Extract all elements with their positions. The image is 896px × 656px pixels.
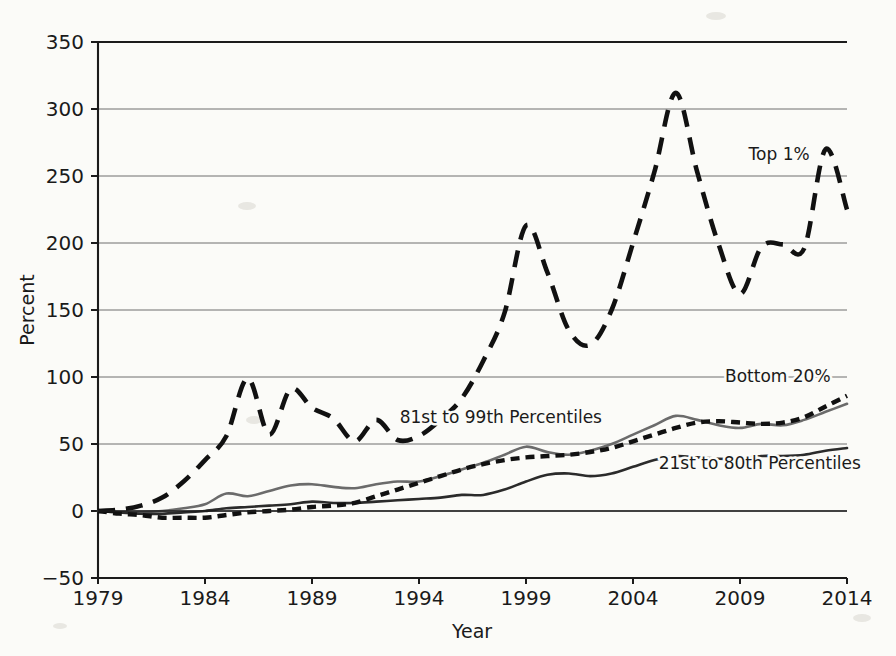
- line-chart: −50050100150200250300350 197919841989199…: [0, 0, 896, 656]
- x-tick-label: 2009: [715, 586, 766, 610]
- x-tick-label: 1979: [73, 586, 124, 610]
- x-tick-label: 1984: [180, 586, 231, 610]
- paper-speck: [706, 12, 726, 20]
- y-tick-label: 200: [46, 231, 84, 255]
- series-annotation: Top 1%: [748, 144, 810, 164]
- x-tick-label: 1999: [501, 586, 552, 610]
- chart-background: [0, 0, 896, 656]
- y-tick-label: 100: [46, 365, 84, 389]
- y-tick-label: 150: [46, 298, 84, 322]
- y-tick-label: 50: [59, 432, 84, 456]
- chart-container: −50050100150200250300350 197919841989199…: [0, 0, 896, 656]
- y-tick-label: 250: [46, 164, 84, 188]
- y-tick-label: 350: [46, 30, 84, 54]
- x-tick-label: 2004: [608, 586, 659, 610]
- series-annotation: Bottom 20%: [725, 366, 831, 386]
- paper-speck: [53, 623, 67, 629]
- series-annotation: 21st to 80th Percentiles: [659, 453, 861, 473]
- y-axis-title: Percent: [16, 274, 38, 346]
- paper-speck: [853, 614, 871, 622]
- series-annotation: 81st to 99th Percentiles: [400, 407, 602, 427]
- x-tick-label: 1994: [394, 586, 445, 610]
- y-tick-label: 0: [71, 499, 84, 523]
- paper-speck: [238, 202, 256, 210]
- x-tick-label: 1989: [287, 586, 338, 610]
- x-tick-label: 2014: [822, 586, 873, 610]
- x-axis-title: Year: [451, 620, 492, 642]
- y-tick-label: 300: [46, 97, 84, 121]
